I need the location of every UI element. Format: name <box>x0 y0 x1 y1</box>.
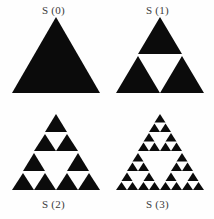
sierpinski-s2-shape <box>12 114 100 190</box>
sierpinski-s0 <box>12 17 100 95</box>
panel-s0: S (0) <box>0 4 107 108</box>
sierpinski-s1-svg <box>116 17 204 95</box>
panel-s2: S (2) <box>0 112 107 216</box>
sierpinski-s2 <box>12 114 100 192</box>
sierpinski-s1-shape <box>116 17 204 93</box>
panel-label-s1: S (1) <box>104 4 211 16</box>
sierpinski-s0-svg <box>12 17 100 95</box>
sierpinski-s3-shape <box>116 114 204 190</box>
panel-s1: S (1) <box>104 4 211 108</box>
sierpinski-s2-svg <box>12 114 100 192</box>
sierpinski-s3 <box>116 114 204 192</box>
panel-label-s2: S (2) <box>0 198 107 210</box>
panel-s3: S (3) <box>104 112 211 216</box>
panel-label-s0: S (0) <box>0 4 107 16</box>
panel-label-s3: S (3) <box>104 198 211 210</box>
sierpinski-s3-svg <box>116 114 204 192</box>
sierpinski-figure: S (0) S (1) <box>0 0 214 219</box>
sierpinski-s1 <box>116 17 204 95</box>
sierpinski-s0-shape <box>12 17 100 93</box>
